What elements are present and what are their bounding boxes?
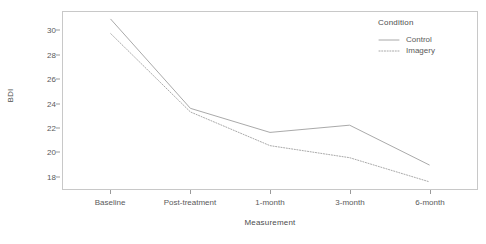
legend-items: ControlImagery	[378, 34, 478, 56]
x-tick-mark	[430, 190, 431, 194]
legend-label: Control	[406, 35, 432, 44]
x-axis-title: Measurement	[62, 218, 478, 227]
legend-key-solid-line-icon	[378, 35, 400, 45]
y-tick-mark	[56, 30, 60, 31]
y-tick-label: 20	[10, 148, 56, 157]
legend-item-control[interactable]: Control	[378, 34, 478, 45]
x-tick-mark	[110, 190, 111, 194]
y-tick-label: 18	[10, 172, 56, 181]
x-tick-mark	[190, 190, 191, 194]
legend: Condition ControlImagery	[378, 18, 478, 56]
chart-container: BDI 18202224262830 BaselinePost-treatmen…	[0, 0, 486, 244]
y-tick-mark	[56, 127, 60, 128]
legend-label: Imagery	[406, 46, 435, 55]
legend-key-dotted-line-icon	[378, 46, 400, 56]
legend-title: Condition	[378, 18, 478, 27]
y-tick-mark	[56, 103, 60, 104]
y-tick-mark	[56, 54, 60, 55]
x-tick-mark	[270, 190, 271, 194]
x-axis-title-label: Measurement	[244, 218, 295, 227]
y-tick-label: 24	[10, 99, 56, 108]
y-tick-label: 30	[10, 26, 56, 35]
y-tick-mark	[56, 152, 60, 153]
x-tick-label: 3-month	[335, 198, 364, 207]
x-tick-label: 6-month	[415, 198, 444, 207]
x-tick-label: Baseline	[95, 198, 126, 207]
x-tick-label: 1-month	[255, 198, 284, 207]
y-tick-label: 26	[10, 75, 56, 84]
y-tick-mark	[56, 176, 60, 177]
y-tick-label: 22	[10, 123, 56, 132]
y-axis-ticks: 18202224262830	[0, 0, 56, 244]
y-tick-mark	[56, 79, 60, 80]
y-tick-label: 28	[10, 50, 56, 59]
legend-item-imagery[interactable]: Imagery	[378, 45, 478, 56]
x-tick-mark	[350, 190, 351, 194]
x-tick-label: Post-treatment	[164, 198, 216, 207]
